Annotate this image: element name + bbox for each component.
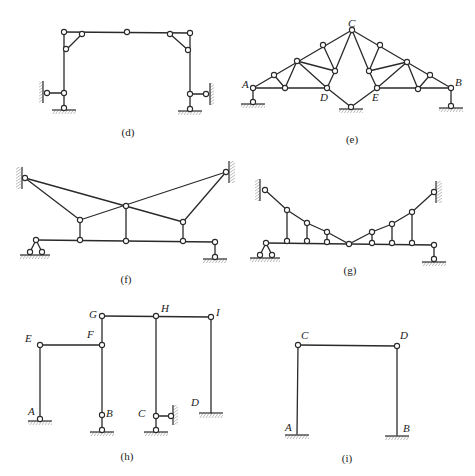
- hinge: [389, 221, 394, 226]
- hinge: [324, 229, 329, 234]
- hinge: [348, 104, 353, 109]
- hinge-B: [448, 85, 453, 90]
- hinge: [187, 91, 192, 96]
- hinge: [212, 254, 217, 259]
- hinge: [187, 106, 192, 111]
- hinge: [369, 240, 374, 245]
- label-D: D: [319, 91, 328, 103]
- hinge: [409, 209, 414, 214]
- hinge: [431, 242, 436, 247]
- hinge: [304, 238, 309, 243]
- hinge: [79, 31, 84, 36]
- label-B: B: [455, 76, 462, 88]
- hinge: [61, 90, 66, 95]
- hinge: [123, 238, 128, 243]
- hinge: [431, 189, 436, 194]
- hinge-E: [374, 85, 379, 90]
- hinge: [257, 252, 262, 257]
- hinge: [366, 68, 371, 73]
- hinge: [124, 29, 129, 34]
- wall-hatch: [16, 167, 21, 189]
- hinge: [99, 427, 104, 432]
- label-C: C: [301, 329, 309, 341]
- hinge: [404, 59, 409, 64]
- hinge: [284, 238, 289, 243]
- hinge: [180, 238, 185, 243]
- label-A: A: [241, 78, 249, 90]
- caption-f: (f): [121, 273, 132, 286]
- hinge: [409, 240, 414, 245]
- label-G: G: [89, 308, 97, 320]
- hinge-C: [153, 413, 158, 418]
- hinge: [332, 68, 337, 73]
- hinge: [187, 30, 192, 35]
- hinge: [77, 237, 82, 242]
- hinge: [44, 90, 49, 95]
- hinge: [61, 29, 66, 34]
- hinge: [203, 91, 208, 96]
- caption-i: (i): [342, 452, 353, 465]
- hinge: [448, 103, 453, 108]
- ground-hatch: [20, 255, 50, 259]
- hinge: [77, 217, 82, 222]
- label-I: I: [215, 306, 221, 318]
- hinge: [212, 239, 217, 244]
- label-A: A: [27, 405, 35, 417]
- label-D: D: [399, 329, 408, 341]
- wall-hatch: [437, 181, 442, 203]
- hinge: [304, 220, 309, 225]
- ground-hatch: [199, 414, 223, 418]
- label-F: F: [86, 328, 94, 340]
- label-B: B: [403, 422, 410, 434]
- hinge: [39, 249, 44, 254]
- hinge: [180, 219, 185, 224]
- hinge: [346, 241, 351, 246]
- hinge: [427, 72, 432, 77]
- label-E: E: [371, 91, 379, 103]
- label-C: C: [138, 407, 146, 419]
- label-B: B: [106, 407, 113, 419]
- hinge: [153, 427, 158, 432]
- hinge-B: [99, 412, 104, 417]
- hinge: [282, 85, 287, 90]
- wall-hatch: [210, 83, 214, 105]
- hinge: [369, 229, 374, 234]
- hinge-H: [153, 313, 158, 318]
- hinge: [22, 175, 27, 180]
- caption-h: (h): [121, 450, 134, 463]
- hinge: [431, 256, 436, 261]
- hinge: [223, 169, 228, 174]
- hinge: [284, 207, 289, 212]
- hinge: [167, 31, 172, 36]
- hinge-C: [295, 342, 300, 347]
- hinge: [389, 240, 394, 245]
- hinge-I: [208, 314, 213, 319]
- figure-i: C D A B (i): [284, 329, 410, 465]
- caption-e: (e): [346, 133, 359, 146]
- hinge-D: [394, 343, 399, 348]
- caption-d: (d): [122, 126, 135, 139]
- wall-hatch: [174, 405, 178, 425]
- hinge: [377, 42, 382, 47]
- hinge: [61, 105, 66, 110]
- hinge: [185, 47, 190, 52]
- hinge: [320, 42, 325, 47]
- hinge-A: [250, 85, 255, 90]
- hinge-A: [37, 416, 42, 421]
- label-C: C: [348, 17, 356, 29]
- hinge: [415, 86, 420, 91]
- figure-g: (g): [250, 179, 446, 277]
- hinge-F: [99, 342, 104, 347]
- hinge: [123, 203, 128, 208]
- label-D: D: [190, 396, 199, 408]
- figure-e: A B C D E (e): [241, 17, 463, 146]
- hinge: [250, 99, 255, 104]
- hinge: [269, 252, 274, 257]
- figure-d: (d): [39, 29, 214, 139]
- hinge: [262, 187, 267, 192]
- hinge: [294, 58, 299, 63]
- hinge: [168, 413, 173, 418]
- hinge: [263, 240, 268, 245]
- structural-diagrams: (d): [0, 0, 475, 476]
- wall-hatch: [255, 179, 260, 201]
